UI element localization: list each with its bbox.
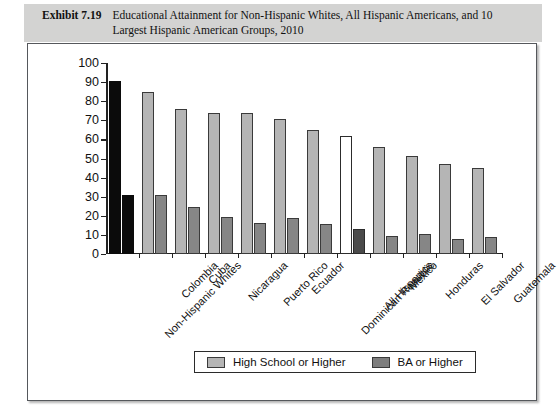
y-axis-tick bbox=[101, 82, 106, 83]
plot-area: 0102030405060708090100 Non-Hispanic Whit… bbox=[106, 63, 502, 254]
bar-high-school bbox=[175, 109, 188, 254]
y-axis-tick bbox=[101, 139, 106, 140]
bar-high-school bbox=[274, 119, 287, 254]
bar-high-school bbox=[109, 81, 122, 254]
y-axis-tick-label: 100 bbox=[78, 56, 99, 70]
y-axis-tick bbox=[101, 120, 106, 121]
bar-ba bbox=[155, 195, 168, 254]
chart-legend: High School or Higher BA or Higher bbox=[194, 351, 476, 373]
y-axis-tick-label: 60 bbox=[85, 132, 99, 146]
x-axis-tick bbox=[337, 253, 338, 258]
y-axis-tick bbox=[101, 178, 106, 179]
y-axis-tick-label: 0 bbox=[92, 247, 99, 261]
legend-swatch-ba bbox=[372, 357, 390, 368]
x-axis-tick bbox=[304, 253, 305, 258]
exhibit-title-band: Exhibit 7.19 Educational Attainment for … bbox=[24, 4, 542, 42]
legend-item-high-school: High School or Higher bbox=[207, 356, 346, 368]
exhibit-title-text: Educational Attainment for Non-Hispanic … bbox=[112, 8, 522, 38]
y-axis-tick bbox=[101, 101, 106, 102]
y-axis-tick-label: 30 bbox=[85, 190, 99, 204]
legend-label-ba: BA or Higher bbox=[398, 356, 463, 368]
y-axis-line bbox=[106, 63, 108, 254]
y-axis-tick-label: 10 bbox=[85, 228, 99, 242]
x-axis-tick bbox=[205, 253, 206, 258]
y-axis-tick-label: 90 bbox=[85, 75, 99, 89]
x-axis-tick bbox=[238, 253, 239, 258]
bar-ba bbox=[353, 229, 366, 254]
x-axis-tick bbox=[403, 253, 404, 258]
y-axis-tick-label: 80 bbox=[85, 94, 99, 108]
bar-high-school bbox=[406, 156, 419, 254]
x-axis-tick bbox=[370, 253, 371, 258]
y-axis-tick-label: 70 bbox=[85, 113, 99, 127]
bar-high-school bbox=[208, 113, 221, 254]
y-axis-tick bbox=[101, 197, 106, 198]
bar-ba bbox=[122, 195, 135, 254]
legend-swatch-high-school bbox=[207, 357, 225, 368]
bar-ba bbox=[287, 218, 300, 254]
x-axis-tick bbox=[436, 253, 437, 258]
bar-ba bbox=[452, 239, 465, 254]
exhibit-number: Exhibit 7.19 bbox=[42, 8, 101, 23]
y-axis-tick bbox=[101, 216, 106, 217]
bar-ba bbox=[188, 207, 201, 254]
legend-item-ba: BA or Higher bbox=[372, 356, 463, 368]
bar-high-school bbox=[241, 113, 254, 254]
bar-high-school bbox=[472, 168, 485, 254]
bar-ba bbox=[419, 234, 432, 254]
y-axis-tick-label: 50 bbox=[85, 152, 99, 166]
bar-ba bbox=[386, 236, 399, 254]
x-axis-tick bbox=[469, 253, 470, 258]
bar-high-school bbox=[373, 147, 386, 254]
y-axis-tick bbox=[101, 235, 106, 236]
chart-figure-frame: 0102030405060708090100 Non-Hispanic Whit… bbox=[27, 43, 537, 401]
bar-high-school bbox=[340, 136, 353, 254]
x-axis-category-label: Honduras bbox=[442, 259, 484, 301]
x-axis-tick bbox=[502, 253, 503, 258]
y-axis-tick bbox=[101, 63, 106, 64]
chart-plot: 0102030405060708090100 Non-Hispanic Whit… bbox=[28, 44, 538, 402]
x-axis-tick bbox=[172, 253, 173, 258]
y-axis-tick bbox=[101, 254, 106, 255]
y-axis-tick bbox=[101, 159, 106, 160]
legend-label-high-school: High School or Higher bbox=[233, 356, 346, 368]
bar-ba bbox=[221, 217, 234, 254]
bar-ba bbox=[254, 223, 267, 254]
bar-high-school bbox=[142, 92, 155, 254]
bar-high-school bbox=[439, 164, 452, 254]
bar-ba bbox=[485, 237, 498, 254]
x-axis-tick bbox=[271, 253, 272, 258]
y-axis-tick-label: 40 bbox=[85, 171, 99, 185]
y-axis-tick-label: 20 bbox=[85, 209, 99, 223]
bar-ba bbox=[320, 224, 333, 254]
bar-high-school bbox=[307, 130, 320, 254]
x-axis-tick bbox=[139, 253, 140, 258]
